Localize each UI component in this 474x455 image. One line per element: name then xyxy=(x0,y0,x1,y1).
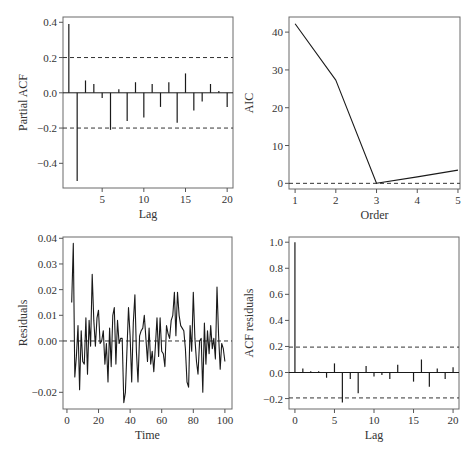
y-tick-label: 0.6 xyxy=(269,288,283,300)
residuals-panel: 0204060801000.040.030.020.010.00−0.02Tim… xyxy=(16,232,234,442)
x-tick-label: 15 xyxy=(408,414,420,426)
x-tick-label: 2 xyxy=(333,194,339,206)
plot-frame xyxy=(63,237,232,409)
x-tick-label: 20 xyxy=(93,414,105,426)
figure: 51015200.40.20.0−0.2−0.4LagPartial ACF 1… xyxy=(0,0,474,455)
pacf-panel: 51015200.40.20.0−0.2−0.4LagPartial ACF xyxy=(16,16,233,221)
x-tick-label: 20 xyxy=(222,193,234,205)
x-tick-label: 20 xyxy=(448,414,460,426)
x-axis-label: Lag xyxy=(365,428,384,442)
x-tick-label: 15 xyxy=(180,193,192,205)
x-tick-label: 5 xyxy=(455,194,461,206)
chart-canvas: 51015200.40.20.0−0.2−0.4LagPartial ACF 1… xyxy=(0,0,474,455)
y-tick-label: 0.4 xyxy=(269,314,283,326)
plot-frame xyxy=(289,17,460,189)
x-tick-label: 60 xyxy=(156,414,168,426)
y-axis-label: Partial ACF xyxy=(16,74,30,131)
x-tick-label: 10 xyxy=(369,414,381,426)
plot-frame xyxy=(63,17,233,188)
y-tick-label: 0.0 xyxy=(269,367,283,379)
y-tick-label: −0.2 xyxy=(263,393,283,405)
y-axis-label: AIC xyxy=(242,93,256,114)
x-tick-label: 3 xyxy=(374,194,380,206)
x-tick-label: 4 xyxy=(415,194,421,206)
y-tick-label: 0.0 xyxy=(43,87,57,99)
y-tick-label: 40 xyxy=(272,26,284,38)
y-tick-label: 0 xyxy=(278,177,284,189)
y-axis-label: Residuals xyxy=(16,299,30,346)
y-tick-label: 0.2 xyxy=(43,52,57,64)
x-tick-label: 0 xyxy=(292,414,298,426)
y-tick-label: −0.4 xyxy=(37,157,57,169)
y-tick-label: 0.04 xyxy=(38,232,58,244)
x-tick-label: 40 xyxy=(125,414,137,426)
aic-panel: 12345010203040OrderAIC xyxy=(242,17,461,222)
y-tick-label: 1.0 xyxy=(269,236,283,248)
x-tick-label: 5 xyxy=(332,414,338,426)
x-axis-label: Order xyxy=(361,208,389,222)
x-axis-label: Lag xyxy=(139,207,158,221)
y-tick-label: 0.02 xyxy=(38,284,57,296)
y-tick-label: 10 xyxy=(272,140,284,152)
x-tick-label: 100 xyxy=(217,414,234,426)
x-axis-label: Time xyxy=(135,428,160,442)
x-tick-label: 10 xyxy=(138,193,150,205)
y-axis-label: ACF residuals xyxy=(242,288,256,357)
y-tick-label: 0.2 xyxy=(269,340,283,352)
y-tick-label: 0.01 xyxy=(38,309,57,321)
data-line xyxy=(72,243,225,402)
y-tick-label: 30 xyxy=(272,64,284,76)
x-tick-label: 5 xyxy=(99,193,105,205)
y-tick-label: 20 xyxy=(272,102,284,114)
acf-residuals-panel: 051015201.00.80.60.40.20.0−0.2LagACF res… xyxy=(242,236,459,442)
y-tick-label: 0.8 xyxy=(269,262,283,274)
x-tick-label: 1 xyxy=(292,194,298,206)
plot-frame xyxy=(289,237,459,409)
y-tick-label: 0.03 xyxy=(38,258,58,270)
x-tick-label: 0 xyxy=(64,414,70,426)
y-tick-label: −0.02 xyxy=(32,386,57,398)
data-line xyxy=(295,24,458,184)
x-tick-label: 80 xyxy=(188,414,200,426)
y-tick-label: 0.4 xyxy=(43,16,57,28)
y-tick-label: 0.00 xyxy=(38,335,58,347)
y-tick-label: −0.2 xyxy=(37,122,57,134)
